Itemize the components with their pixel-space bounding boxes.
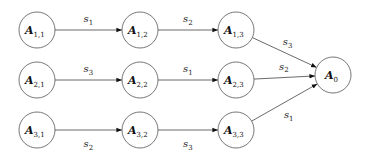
node-A31: A3,1 [19,112,55,148]
edge-label: s2 [183,13,193,27]
edge-label: s3 [183,138,193,152]
edge-label: s2 [279,61,289,75]
node-A21: A2,1 [19,62,55,98]
edge-label: s3 [283,36,293,50]
edge-A21-A22: s3 [55,63,122,80]
edges-layer: s1s2s3s3s1s2s2s3s1 [55,13,317,152]
edge-arrow [254,76,315,79]
node-A23: A2,3 [218,62,254,98]
edge-label: s1 [84,13,94,27]
graph-canvas: s1s2s3s3s1s2s2s3s1 A1,1A1,2A1,3A2,1A2,2A… [0,0,366,159]
edge-A33-A0: s1 [252,84,318,123]
node-A33: A3,3 [218,112,254,148]
edge-label: s2 [84,138,94,152]
node-A0: A0 [315,57,351,93]
edge-A32-A33: s3 [158,130,218,152]
edge-A31-A32: s2 [55,130,122,152]
edge-label: s1 [183,63,193,77]
node-A12: A1,2 [122,12,158,48]
edge-A12-A13: s2 [158,13,218,30]
node-A13: A1,3 [218,12,254,48]
edge-label: s3 [84,63,94,77]
node-A32: A3,2 [122,112,158,148]
edge-A23-A0: s2 [254,61,315,80]
edge-A13-A0: s3 [252,36,316,67]
node-A22: A2,2 [122,62,158,98]
edge-label: s1 [284,109,294,123]
edge-A22-A23: s1 [158,63,218,80]
edge-A11-A12: s1 [55,13,122,30]
node-A11: A1,1 [19,12,55,48]
